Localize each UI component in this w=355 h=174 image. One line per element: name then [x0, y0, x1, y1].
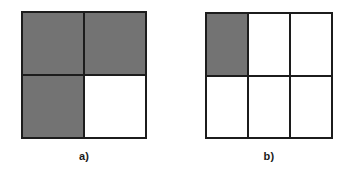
empty-cell — [291, 77, 331, 138]
fraction-grid-b — [205, 12, 333, 139]
figure-a-label: a) — [21, 150, 147, 163]
empty-cell — [207, 77, 247, 138]
shaded-cell — [85, 13, 145, 74]
empty-cell — [291, 14, 331, 75]
figure-b-label: b) — [205, 150, 333, 163]
empty-cell — [249, 14, 289, 75]
shaded-cell — [23, 13, 83, 74]
shaded-cell — [23, 76, 83, 137]
fraction-grid-a — [21, 11, 147, 139]
empty-cell — [249, 77, 289, 138]
shaded-cell — [207, 14, 247, 75]
empty-cell — [85, 76, 145, 137]
